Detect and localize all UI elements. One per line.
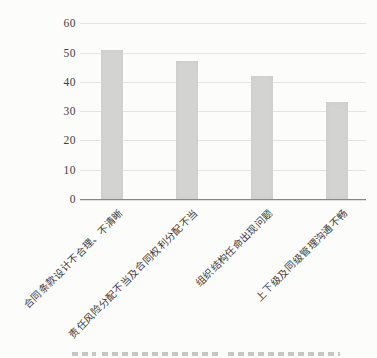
bar-4 [326, 102, 348, 199]
bar-1 [101, 50, 123, 199]
y-tick-label: 10 [46, 164, 76, 176]
y-tick-label: 40 [46, 76, 76, 88]
caption-fragment [72, 352, 96, 356]
caption-fragment [228, 352, 340, 356]
x-axis-line [80, 199, 366, 200]
y-tick-label: 0 [46, 193, 76, 205]
y-gridline [80, 23, 366, 24]
x-category-label: 组织结构任命出现问题 [191, 205, 275, 289]
y-tick-label: 20 [46, 134, 76, 146]
bar-3 [251, 76, 273, 199]
y-tick-label: 60 [46, 17, 76, 29]
x-category-label: 责任风险分配不当及合同权利分配不当 [65, 205, 201, 341]
y-tick-label: 50 [46, 47, 76, 59]
caption-fragment [102, 352, 218, 356]
figure-caption-clipped [0, 352, 377, 358]
y-tick-label: 30 [46, 105, 76, 117]
bar-chart-figure: 0102030405060合同条款设计不合理、不清晰责任风险分配不当及合同权利分… [0, 0, 377, 358]
bar-2 [176, 61, 198, 199]
